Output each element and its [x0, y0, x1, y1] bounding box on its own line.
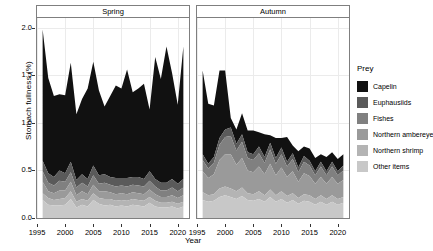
gridline-horizontal — [37, 218, 189, 219]
facet-strip-autumn: Autumn — [196, 5, 350, 18]
legend-swatch-icon — [357, 129, 368, 140]
legend-swatch-icon — [357, 81, 368, 92]
x-tick-mark — [150, 224, 151, 227]
legend-label: Fishes — [373, 115, 394, 122]
y-tick-mark — [32, 170, 35, 171]
x-tick-mark — [37, 224, 38, 227]
legend-swatch-icon — [357, 161, 368, 172]
facet-strip-label: Spring — [102, 7, 124, 16]
y-tick-label: 0.5 — [22, 166, 32, 174]
x-tick-mark — [178, 224, 179, 227]
legend-items: CapelinEuphausiidsFishesNorthern amberey… — [357, 79, 433, 174]
x-tick-mark — [253, 224, 254, 227]
plot-area-autumn — [196, 18, 350, 219]
y-tick-label: 0.0 — [22, 214, 32, 222]
facet-panel-autumn: Autumn 199520002005201020152020 — [196, 5, 350, 219]
legend-item[interactable]: Northern shrimp — [357, 143, 433, 158]
legend-swatch-icon — [357, 113, 368, 124]
x-tick-mark — [310, 224, 311, 227]
facet-strip-spring: Spring — [36, 5, 190, 18]
x-tick-mark — [197, 224, 198, 227]
legend-item[interactable]: Northern ambereye — [357, 127, 433, 142]
x-axis-title: Year — [36, 236, 350, 245]
x-tick-mark — [65, 224, 66, 227]
legend-item[interactable]: Euphausiids — [357, 95, 433, 110]
y-tick-mark — [32, 75, 35, 76]
legend-swatch-icon — [357, 97, 368, 108]
legend-label: Northern shrimp — [373, 147, 423, 154]
legend: Prey CapelinEuphausiidsFishesNorthern am… — [357, 64, 433, 175]
y-tick-label: 1.0 — [22, 119, 32, 127]
legend-label: Euphausiids — [373, 99, 411, 106]
x-tick-mark — [338, 224, 339, 227]
legend-label: Other items — [373, 163, 409, 170]
plot-area-spring — [36, 18, 190, 219]
legend-title: Prey — [357, 64, 433, 73]
y-axis-ticks: 0.00.51.01.52.0 — [10, 18, 32, 218]
facet-panel-spring: Spring 199520002005201020152020 — [36, 5, 190, 219]
area-band — [43, 29, 184, 183]
legend-label: Northern ambereye — [373, 131, 433, 138]
gridline-horizontal — [197, 218, 349, 219]
facet-strip-label: Autumn — [260, 7, 286, 16]
x-tick-mark — [93, 224, 94, 227]
legend-swatch-icon — [357, 145, 368, 156]
x-tick-mark — [225, 224, 226, 227]
y-tick-label: 1.5 — [22, 71, 32, 79]
x-tick-mark — [281, 224, 282, 227]
legend-item[interactable]: Other items — [357, 159, 433, 174]
legend-label: Capelin — [373, 83, 397, 90]
legend-item[interactable]: Capelin — [357, 79, 433, 94]
y-tick-label: 2.0 — [22, 24, 32, 32]
stacked-area-series — [197, 18, 349, 218]
y-tick-mark — [32, 123, 35, 124]
stacked-area-series — [37, 18, 189, 218]
y-tick-mark — [32, 28, 35, 29]
x-tick-mark — [121, 224, 122, 227]
y-tick-mark — [32, 218, 35, 219]
legend-item[interactable]: Fishes — [357, 111, 433, 126]
